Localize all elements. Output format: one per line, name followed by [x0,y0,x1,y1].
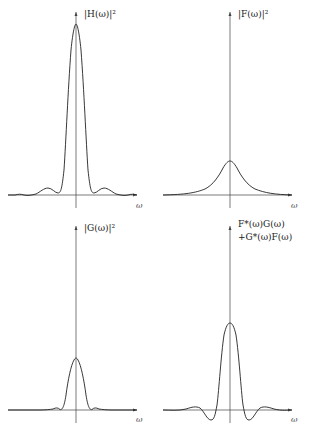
h-spectrum-ylabel-text: |H(ω)|² [84,9,116,19]
cross-spectrum-ylabel: F*(ω)G(ω) +G*(ω)F(ω) [238,219,292,243]
f-spectrum-ylabel-text: |F(ω)|² [238,9,268,19]
g-spectrum-ylabel: |G(ω)|² [84,223,115,234]
f-spectrum-xlabel-text: ω [291,201,298,210]
cross-spectrum-curve [163,323,292,420]
y-axis-arrow [229,226,232,230]
h-spectrum-ylabel: |H(ω)|² [84,9,116,20]
g-spectrum-xlabel-text: ω [136,415,143,424]
panel-g-spectrum [8,226,137,423]
f-spectrum-xlabel: ω [291,200,298,211]
h-spectrum-curve [8,24,137,195]
g-spectrum-xlabel: ω [136,414,143,425]
cross-spectrum-xlabel-text: ω [291,415,298,424]
h-spectrum-xlabel: ω [136,200,143,211]
f-spectrum-ylabel: |F(ω)|² [238,9,268,20]
panel-h-spectrum [8,12,137,208]
panel-cross-spectrum [163,226,292,423]
g-spectrum-curve [8,358,137,410]
cross-spectrum-xlabel: ω [291,414,298,425]
h-spectrum-xlabel-text: ω [136,201,143,210]
f-spectrum-curve [163,161,292,195]
y-axis-arrow [75,12,78,16]
g-spectrum-ylabel-text: |G(ω)|² [84,223,115,233]
panel-f-spectrum [163,12,292,208]
figure-canvas [0,0,310,427]
cross-spectrum-ylabel-line2: +G*(ω)F(ω) [238,232,292,243]
y-axis-arrow [229,12,232,16]
cross-spectrum-ylabel-line1: F*(ω)G(ω) [238,219,292,230]
y-axis-arrow [75,226,78,230]
